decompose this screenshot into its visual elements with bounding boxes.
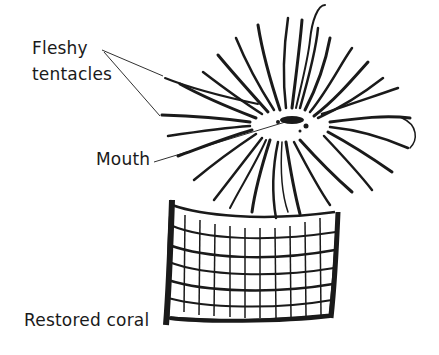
label-restored-coral: Restored coral [24,310,149,330]
label-fleshy-tentacles-line2: tentacles [32,64,112,84]
label-fleshy-tentacles-line1: Fleshy [32,38,88,58]
label-mouth: Mouth [96,149,150,169]
coral-stalk [166,200,338,325]
leader-line-tentacles-lower [104,52,160,116]
